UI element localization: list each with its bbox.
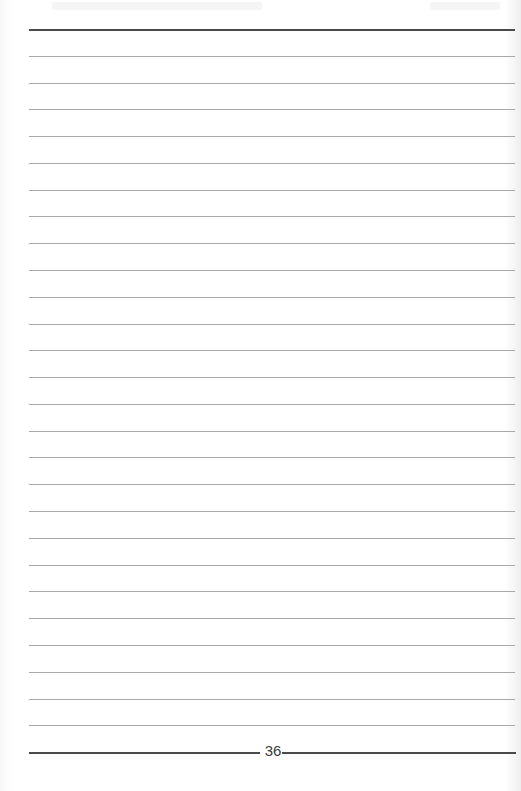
ruled-line: [29, 538, 515, 539]
ruled-line: [29, 297, 515, 298]
ruled-line: [29, 457, 515, 458]
ruled-line: [29, 163, 515, 164]
ruled-line: [29, 83, 515, 84]
ruled-line: [29, 591, 515, 592]
ruled-line: [29, 136, 515, 137]
ruled-line: [29, 377, 515, 378]
ruled-line: [29, 190, 515, 191]
top-thick-rule: [29, 29, 515, 31]
footer-rule-right: [282, 752, 516, 754]
ruled-line: [29, 404, 515, 405]
ruled-line: [29, 56, 515, 57]
bleed-through-text: [52, 2, 262, 10]
bleed-through-text: [430, 2, 500, 10]
ruled-line: [29, 565, 515, 566]
ruled-line: [29, 645, 515, 646]
ruled-line: [29, 216, 515, 217]
footer-rule-left: [29, 752, 260, 754]
ruled-line: [29, 618, 515, 619]
ruled-line: [29, 243, 515, 244]
ruled-line: [29, 270, 515, 271]
notebook-page: 36: [0, 0, 521, 791]
page-number: 36: [261, 741, 285, 761]
ruled-line: [29, 109, 515, 110]
ruled-line: [29, 431, 515, 432]
ruled-line: [29, 725, 515, 726]
ruled-line: [29, 324, 515, 325]
ruled-line: [29, 350, 515, 351]
ruled-line: [29, 484, 515, 485]
ruled-line: [29, 511, 515, 512]
ruled-line: [29, 699, 515, 700]
ruled-line: [29, 672, 515, 673]
